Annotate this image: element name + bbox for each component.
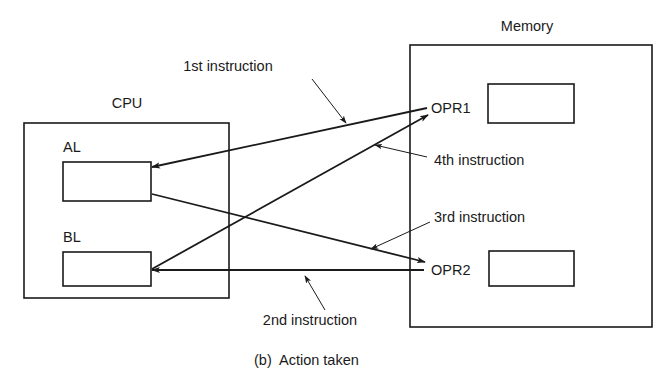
leader-3rd-instruction (371, 222, 430, 249)
register-bl (63, 252, 151, 286)
leader-1st-instruction (312, 79, 346, 123)
label-3rd-instruction: 3rd instruction (434, 209, 525, 225)
cpu-title: CPU (112, 95, 143, 111)
label-1st-instruction: 1st instruction (183, 58, 272, 74)
arrow-1st-instruction (152, 108, 427, 167)
label-4th-instruction: 4th instruction (434, 152, 524, 168)
arrow-3rd-instruction (152, 194, 425, 262)
register-al (63, 162, 151, 201)
memory-location-opr2-label: OPR2 (431, 262, 471, 278)
memory-location-opr2 (489, 251, 574, 286)
register-bl-label: BL (63, 229, 81, 245)
memory-location-opr1 (488, 84, 574, 123)
register-al-label: AL (63, 139, 81, 155)
label-2nd-instruction: 2nd instruction (263, 312, 357, 328)
memory-location-opr1-label: OPR1 (431, 100, 471, 116)
leader-2nd-instruction (305, 276, 325, 310)
memory-box (410, 45, 652, 327)
cpu-box (24, 123, 229, 298)
figure-caption: (b) Action taken (254, 352, 359, 368)
leader-4th-instruction (375, 145, 427, 157)
instruction-flow-diagram: CPU AL BL Memory OPR1 OPR2 1st instructi… (0, 0, 668, 389)
memory-title: Memory (501, 18, 554, 34)
